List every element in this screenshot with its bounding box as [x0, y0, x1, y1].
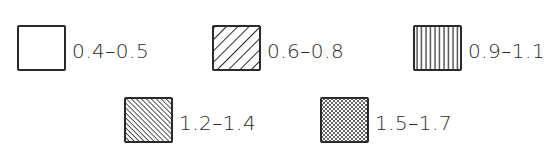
vertical-lines-swatch-icon: [413, 25, 462, 71]
legend-item-0-6-0-8: 0.6–0.8: [212, 25, 344, 71]
legend-item-1-5-1-7: 1.5–1.7: [320, 97, 452, 143]
diagonal-hatch-swatch-icon: [212, 25, 261, 71]
legend-item-0-9-1-1: 0.9–1.1: [413, 25, 545, 71]
blank-swatch-icon: [17, 25, 66, 71]
legend-label: 1.5–1.7: [375, 111, 452, 135]
crosshatch-swatch-icon: [320, 97, 369, 143]
dense-diagonal-hatch-swatch-icon: [124, 97, 173, 143]
legend-item-1-2-1-4: 1.2–1.4: [124, 97, 256, 143]
legend-label: 0.6–0.8: [267, 39, 344, 63]
legend-label: 1.2–1.4: [179, 111, 256, 135]
legend-item-0-4-0-5: 0.4–0.5: [17, 25, 149, 71]
legend-label: 0.9–1.1: [468, 39, 545, 63]
legend-label: 0.4–0.5: [72, 39, 149, 63]
